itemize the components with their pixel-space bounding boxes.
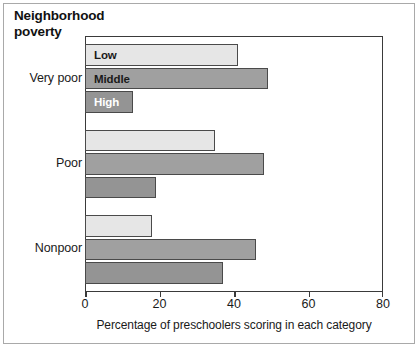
x-tick-label: 20 [153, 297, 167, 311]
y-axis-category-labels: Very poorPoorNonpoor [0, 36, 82, 292]
bar [85, 153, 264, 175]
chart-title: Neighborhood poverty [14, 8, 164, 39]
x-axis-title: Percentage of preschoolers scoring in ea… [85, 318, 383, 332]
chart-figure: Neighborhood poverty Very poorPoorNonpoo… [0, 0, 419, 348]
x-tick-label: 40 [227, 297, 241, 311]
x-axis-tick-labels: 020406080 [0, 297, 419, 315]
series-legend-label-low: Low [86, 49, 117, 61]
bar [85, 239, 256, 261]
y-axis-label-nonpoor: Nonpoor [0, 241, 82, 255]
bars-layer: LowMiddleHigh [85, 36, 383, 292]
y-axis-label-poor: Poor [0, 156, 82, 170]
bar [85, 262, 223, 284]
bar [85, 130, 215, 152]
x-tick-label: 80 [376, 297, 390, 311]
bar [85, 177, 156, 199]
series-legend-label-high: High [86, 96, 119, 108]
bar: Middle [85, 68, 268, 90]
x-tick-label: 60 [302, 297, 316, 311]
bar: High [85, 91, 133, 113]
x-tick-label: 0 [82, 297, 89, 311]
series-legend-label-middle: Middle [86, 73, 130, 85]
bar: Low [85, 44, 238, 66]
y-axis-label-very-poor: Very poor [0, 71, 82, 85]
bar [85, 215, 152, 237]
